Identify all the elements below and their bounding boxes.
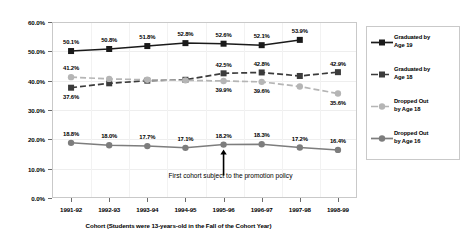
- series-marker: [182, 77, 188, 83]
- legend-item[interactable]: Dropped Out by Age 16: [370, 129, 456, 155]
- series-marker: [68, 140, 74, 146]
- annotation-promotion-policy: First cohort subject to the promotion po…: [148, 172, 313, 181]
- legend-item[interactable]: Graduated by Age 19: [370, 33, 456, 59]
- series-marker: [297, 83, 303, 89]
- series-marker: [144, 143, 150, 149]
- series-marker: [144, 43, 150, 49]
- data-label: 52.6%: [216, 32, 232, 38]
- legend-swatch-square-icon: [370, 66, 394, 77]
- x-tick-label: 1995-96: [213, 206, 235, 213]
- series-marker: [335, 69, 341, 75]
- annotation-text: First cohort subject to the promotion po…: [169, 172, 293, 179]
- series-marker: [106, 76, 112, 82]
- data-label: 53.9%: [292, 28, 308, 34]
- series-marker: [297, 73, 303, 79]
- x-tick-mark: [71, 198, 72, 202]
- legend-label: Graduated by Age 19: [394, 33, 430, 50]
- series-marker: [221, 41, 227, 47]
- data-label: 52.8%: [177, 31, 193, 37]
- x-tick-label: 1997-98: [289, 206, 311, 213]
- data-label: 35.6%: [330, 100, 346, 106]
- data-label: 17.1%: [177, 136, 193, 142]
- data-label: 39.9%: [216, 87, 232, 93]
- data-label: 50.8%: [101, 37, 117, 43]
- data-label: 16.4%: [330, 138, 346, 144]
- y-tick-label: 40.0%: [28, 77, 45, 84]
- data-label: 37.6%: [63, 94, 79, 100]
- x-tick-mark: [262, 198, 263, 202]
- data-label: 52.1%: [254, 33, 270, 39]
- x-tick-label: 1993-94: [136, 206, 158, 213]
- legend-swatch-square-icon: [370, 34, 394, 45]
- legend-label: Graduated by Age 18: [394, 65, 430, 82]
- series-marker: [335, 147, 341, 153]
- x-tick-mark: [109, 198, 110, 202]
- legend-label: Dropped Out by Age 18: [394, 97, 428, 114]
- series-marker: [221, 70, 227, 76]
- data-label: 50.1%: [63, 39, 79, 45]
- y-axis: 60.0%50.0%40.0%30.0%20.0%10.0%0.0%: [0, 22, 52, 198]
- series-marker: [297, 144, 303, 150]
- data-label: 18.8%: [63, 131, 79, 137]
- x-tick-label: 1998-99: [327, 206, 349, 213]
- data-label: 18.2%: [216, 133, 232, 139]
- series-marker: [106, 142, 112, 148]
- x-tick-label: 1996-97: [251, 206, 273, 213]
- data-label: 42.5%: [216, 62, 232, 68]
- series-marker: [259, 42, 265, 48]
- x-tick-mark: [147, 198, 148, 202]
- chart-container: 60.0%50.0%40.0%30.0%20.0%10.0%0.0% 50.1%…: [0, 0, 462, 243]
- data-label: 18.3%: [254, 132, 270, 138]
- data-label: 17.7%: [139, 134, 155, 140]
- legend-item[interactable]: Dropped Out by Age 18: [370, 97, 456, 123]
- y-tick-label: 10.0%: [28, 165, 45, 172]
- x-tick-mark: [300, 198, 301, 202]
- x-tick-mark: [224, 198, 225, 202]
- data-label: 42.8%: [254, 61, 270, 67]
- legend-item[interactable]: Graduated by Age 18: [370, 65, 456, 91]
- series-marker: [335, 90, 341, 96]
- series-marker: [68, 74, 74, 80]
- series-marker: [144, 77, 150, 83]
- series-marker: [182, 145, 188, 151]
- x-tick-label: 1991-92: [60, 206, 82, 213]
- series-marker: [68, 85, 74, 91]
- legend-label: Dropped Out by Age 16: [394, 129, 428, 146]
- series-marker: [106, 46, 112, 52]
- series-marker: [297, 37, 303, 43]
- data-label: 51.8%: [139, 34, 155, 40]
- legend-swatch-circle-icon: [370, 98, 394, 109]
- series-marker: [258, 141, 264, 147]
- y-tick-label: 50.0%: [28, 48, 45, 55]
- data-label: 42.9%: [330, 61, 346, 67]
- data-label: 41.2%: [63, 65, 79, 71]
- x-axis-title: Cohort (Students were 13-years-old in th…: [0, 222, 462, 229]
- legend-swatch-circle-icon: [370, 130, 394, 141]
- y-tick-label: 20.0%: [28, 136, 45, 143]
- data-label: 17.2%: [292, 136, 308, 142]
- series-marker: [220, 141, 226, 147]
- series-marker: [68, 48, 74, 54]
- x-tick-label: 1994-95: [174, 206, 196, 213]
- y-tick-label: 0.0%: [31, 195, 45, 202]
- series-marker: [259, 69, 265, 75]
- data-label: 18.0%: [101, 133, 117, 139]
- x-tick-label: 1992-93: [98, 206, 120, 213]
- series-marker: [220, 78, 226, 84]
- x-tick-mark: [338, 198, 339, 202]
- chart-legend: Graduated by Age 19Graduated by Age 18Dr…: [366, 26, 460, 160]
- y-tick-label: 30.0%: [28, 107, 45, 114]
- series-marker: [258, 79, 264, 85]
- series-marker: [182, 40, 188, 46]
- x-axis: 1991-921992-931993-941994-951995-961996-…: [52, 198, 357, 220]
- y-tick-label: 60.0%: [28, 19, 45, 26]
- x-tick-mark: [185, 198, 186, 202]
- data-label: 39.6%: [254, 88, 270, 94]
